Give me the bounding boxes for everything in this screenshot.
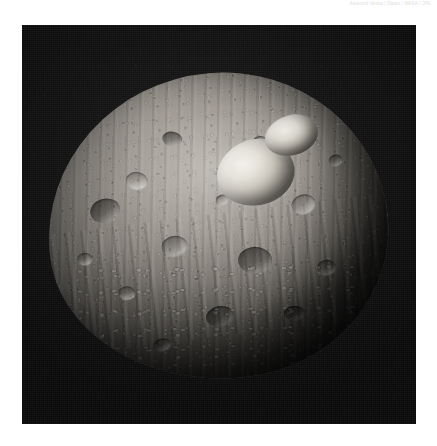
page-header: Asteroid Vesta | Dawn | NASA / JPL [0,0,437,22]
asteroid-image[interactable] [22,25,416,424]
asteroid-body [35,59,400,393]
terminator-shadow [35,59,400,393]
header-caption: Asteroid Vesta | Dawn | NASA / JPL [350,1,431,7]
